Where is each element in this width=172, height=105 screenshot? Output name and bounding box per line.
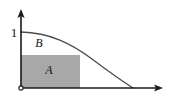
region-label-b: B: [35, 36, 43, 50]
region-label-a: A: [44, 63, 53, 77]
math-figure: 1 A B: [0, 0, 172, 105]
figure-container: 1 A B: [0, 0, 172, 105]
origin-marker-icon: [19, 86, 23, 90]
y-axis-tick-label-1: 1: [11, 25, 18, 40]
